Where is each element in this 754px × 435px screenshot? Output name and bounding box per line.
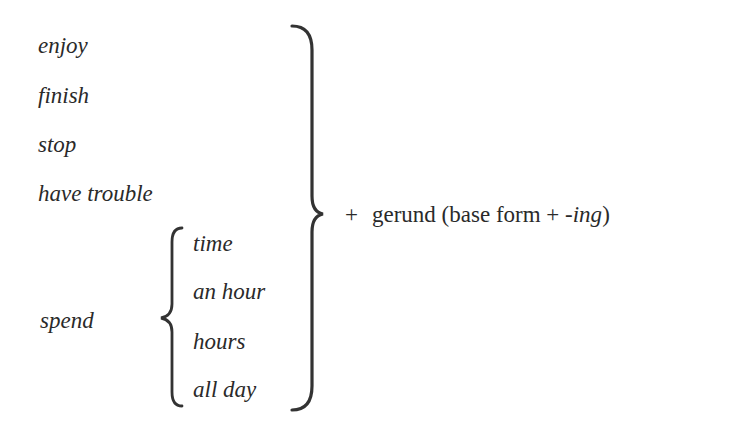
right-brace-icon: [292, 26, 323, 410]
closing-paren: ): [602, 202, 610, 227]
ing-suffix: -ing: [565, 202, 602, 227]
left-brace-icon: [161, 228, 182, 406]
plus-sign: +: [345, 202, 358, 227]
gerund-rule: +gerund (base form + -ing): [345, 203, 610, 226]
gerund-label: gerund (base form +: [372, 202, 559, 227]
